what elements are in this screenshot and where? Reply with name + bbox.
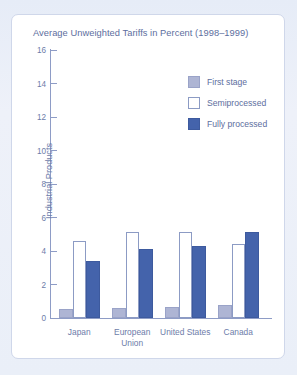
bar (165, 307, 179, 318)
y-tick-mark (51, 50, 57, 51)
legend-label: Semiprocessed (207, 98, 266, 108)
legend-swatch (188, 97, 200, 109)
bar-group (112, 50, 153, 318)
y-tick-label: 12 (37, 113, 46, 122)
x-axis-line (50, 318, 272, 319)
y-tick-label: 8 (41, 180, 46, 189)
y-tick-mark (51, 284, 57, 285)
bar (112, 308, 126, 318)
legend-item: Semiprocessed (188, 92, 292, 113)
y-tick-mark (51, 117, 57, 118)
figure-root: Average Unweighted Tariffs in Percent (1… (0, 0, 297, 375)
legend-item: Fully processed (188, 113, 292, 134)
bar (179, 232, 193, 317)
y-tick-mark (51, 83, 57, 84)
x-axis-label: Canada (204, 327, 273, 338)
y-tick-mark (51, 318, 57, 319)
y-tick-label: 10 (37, 146, 46, 155)
chart-legend: First stageSemiprocessedFully processed (188, 71, 292, 134)
y-tick-label: 6 (41, 213, 46, 222)
bar (232, 244, 246, 318)
y-tick-mark (51, 150, 57, 151)
legend-label: Fully processed (207, 119, 267, 129)
legend-swatch (188, 118, 200, 130)
chart-title: Average Unweighted Tariffs in Percent (1… (33, 28, 283, 38)
legend-swatch (188, 76, 200, 88)
legend-label: First stage (207, 77, 247, 87)
y-tick-mark (51, 251, 57, 252)
bar (73, 241, 87, 318)
y-tick-label: 4 (41, 247, 46, 256)
bar-group (59, 50, 100, 318)
legend-item: First stage (188, 71, 292, 92)
y-tick-mark (51, 217, 57, 218)
y-tick-mark (51, 184, 57, 185)
y-tick-label: 0 (41, 314, 46, 323)
bar (192, 246, 206, 317)
y-tick-label: 2 (41, 280, 46, 289)
y-tick-label: 14 (37, 79, 46, 88)
bar (139, 249, 153, 318)
y-tick-label: 16 (37, 46, 46, 55)
bar (245, 232, 259, 317)
bar (218, 305, 232, 318)
chart-card: Average Unweighted Tariffs in Percent (1… (11, 14, 285, 359)
bar (126, 232, 140, 317)
bar (86, 261, 100, 318)
bar (59, 309, 73, 317)
